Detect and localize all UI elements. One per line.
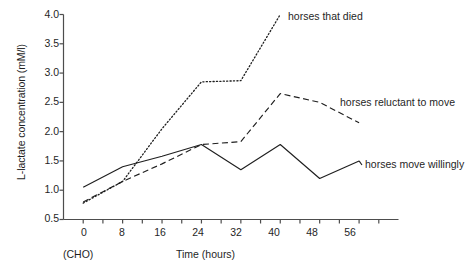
plot-canvas	[0, 0, 473, 273]
chart-figure: L-lactate concentration (mM/l) 4.0 3.5 3…	[0, 0, 473, 273]
series-line-solid	[83, 145, 359, 188]
series-lines	[83, 15, 359, 204]
series-line-dotted	[83, 15, 280, 204]
label-leader-lines	[359, 161, 362, 165]
series-line-dashed	[83, 94, 359, 202]
axis-lines	[60, 15, 399, 224]
